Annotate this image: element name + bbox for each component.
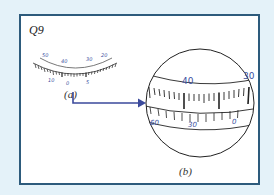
small-scale-labels: 50 40 30 20 10 0 5 — [42, 52, 107, 86]
svg-text:30: 30 — [86, 56, 92, 62]
svg-text:40: 40 — [61, 58, 67, 64]
svg-text:40: 40 — [182, 76, 194, 86]
svg-text:30: 30 — [243, 71, 255, 81]
svg-text:50: 50 — [42, 52, 48, 58]
svg-text:60: 60 — [150, 119, 159, 127]
svg-text:5: 5 — [86, 79, 89, 85]
svg-text:0: 0 — [232, 118, 237, 126]
magnify-arrow — [73, 92, 146, 108]
diagram-canvas: 50 40 30 20 10 0 5 — [0, 0, 274, 195]
magnified-circle — [140, 49, 260, 157]
svg-text:20: 20 — [101, 52, 107, 58]
svg-text:10: 10 — [48, 77, 54, 83]
svg-text:30: 30 — [188, 121, 197, 129]
small-scale — [33, 58, 117, 77]
svg-text:0: 0 — [66, 80, 69, 86]
